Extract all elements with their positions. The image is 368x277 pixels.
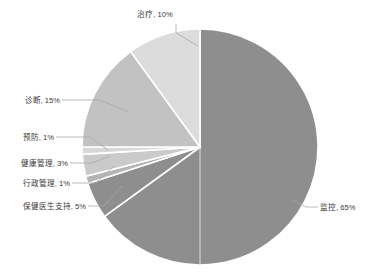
pie-label-health-management: 健康管理, 3% — [21, 158, 68, 168]
pie-chart-svg: 治疗, 10% 诊断, 15% 预防, 1% 健康管理, 3% 行政管理, 1%… — [0, 0, 368, 277]
pie-label-doctor-support: 保健医生支持, 5% — [23, 201, 86, 211]
pie-chart: 治疗, 10% 诊断, 15% 预防, 1% 健康管理, 3% 行政管理, 1%… — [0, 0, 368, 277]
pie-label-administration: 行政管理, 1% — [23, 178, 70, 188]
pie-label-diagnosis: 诊断, 15% — [25, 95, 61, 105]
pie-label-treatment: 治疗, 10% — [137, 9, 173, 19]
pie-label-prevention: 预防, 1% — [23, 132, 54, 142]
pie-label-monitoring: 监控, 65% — [320, 202, 356, 212]
